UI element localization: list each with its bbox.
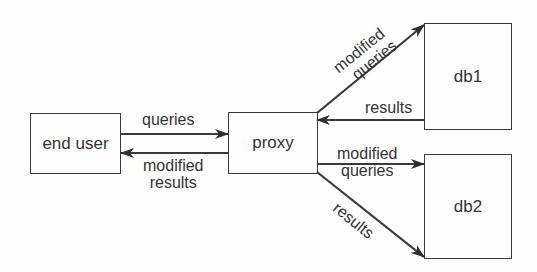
- label-modified-queries-db2-line2: queries: [337, 162, 397, 179]
- label-modified-results: modified results: [143, 157, 203, 191]
- node-db1: db1: [424, 23, 512, 130]
- label-modified-results-line1: modified: [143, 157, 203, 174]
- node-db2: db2: [424, 154, 512, 259]
- node-end-user-label: end user: [42, 134, 108, 154]
- diagram-canvas: end user proxy db1 db2 queries modified …: [0, 0, 537, 272]
- label-results-db1: results: [365, 99, 412, 116]
- node-db1-label: db1: [454, 67, 482, 87]
- node-proxy-label: proxy: [252, 133, 294, 153]
- node-db2-label: db2: [454, 197, 482, 217]
- label-queries: queries: [142, 111, 194, 128]
- label-modified-results-line2: results: [143, 174, 203, 191]
- label-modified-queries-db2: modified queries: [337, 145, 397, 179]
- node-proxy: proxy: [228, 112, 318, 174]
- node-end-user: end user: [30, 113, 121, 174]
- label-modified-queries-db2-line1: modified: [337, 145, 397, 162]
